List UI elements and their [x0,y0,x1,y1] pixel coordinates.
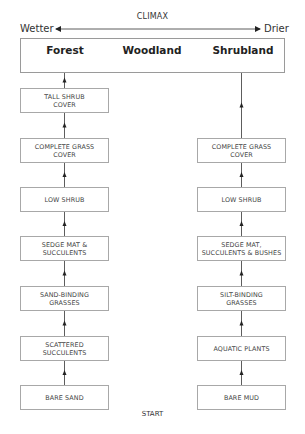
stage-silt-binding-grasses: SILT-BINDING GRASSES [197,286,286,311]
stage-low-shrub-mud: LOW SHRUB [197,187,286,212]
climax-forest: Forest [20,44,110,56]
stage-bare-mud: BARE MUD [197,385,286,410]
stage-low-shrub-sand: LOW SHRUB [20,187,109,212]
stage-scattered-succulents: SCATTERED SUCCULENTS [20,336,109,361]
stage-bare-sand: BARE SAND [20,385,109,410]
arrowhead-icon [240,103,244,108]
arrowhead-icon [63,271,67,276]
arrowhead-icon [63,172,67,177]
start-label: START [0,410,305,418]
stage-tall-shrub-cover: TALL SHRUB COVER [20,88,109,113]
arrowhead-icon [63,123,67,128]
arrowhead-icon [240,172,244,177]
stage-sedge-mat-succulents-bushes: SEDGE MAT, SUCCULENTS & BUSHES [197,236,286,261]
arrowhead-icon [63,321,67,326]
arrowhead-icon [240,271,244,276]
arrowhead-icon [63,370,67,375]
arrowhead-icon [240,321,244,326]
climax-shrubland: Shrubland [198,44,288,56]
stage-aquatic-plants: AQUATIC PLANTS [197,336,286,361]
stage-sand-binding-grasses: SAND-BINDING GRASSES [20,286,109,311]
stage-sedge-mat-succulents: SEDGE MAT & SUCCULENTS [20,236,109,261]
stage-complete-grass-cover-mud: COMPLETE GRASS COVER [197,138,286,163]
arrowhead-icon [240,370,244,375]
stage-complete-grass-cover-sand: COMPLETE GRASS COVER [20,138,109,163]
arrowhead-icon [63,78,67,83]
climax-woodland: Woodland [107,44,197,56]
arrowhead-icon [240,221,244,226]
arrowhead-icon [63,221,67,226]
